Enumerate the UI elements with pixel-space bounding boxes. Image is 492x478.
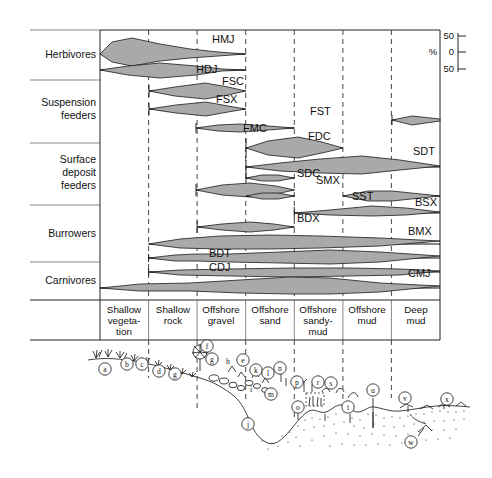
key-marker-b: b	[121, 358, 133, 370]
key-letter-m: m	[268, 390, 274, 399]
key-marker-i: i	[250, 385, 252, 394]
series-label-SST: SST	[352, 190, 374, 202]
key-letter-s: s	[330, 379, 333, 388]
habitat-6-l2: mud	[406, 315, 425, 326]
series-label-BDX: BDX	[297, 212, 320, 224]
key-letter-i: i	[250, 385, 252, 394]
key-marker-a: a	[99, 363, 111, 375]
guild-label-carnivores: Carnivores	[45, 274, 96, 286]
key-letter-g1: g	[173, 370, 177, 379]
figure-svg: Herbivores Suspension feeders Surface de…	[0, 0, 492, 478]
series-label-HDJ: HDJ	[196, 63, 217, 75]
series-label-FSX: FSX	[216, 93, 238, 105]
habitat-3-l1: Offshore	[251, 304, 289, 315]
key-marker-x: x	[441, 393, 453, 405]
series-label-BMX: BMX	[408, 225, 433, 237]
key-marker-u: u	[367, 384, 379, 396]
key-marker-j: j	[242, 418, 254, 430]
key-marker-v: v	[399, 392, 411, 404]
key-letter-d: d	[157, 367, 161, 376]
key-letter-l: l	[267, 369, 269, 378]
habitat-0-l2: vegeta-	[108, 315, 141, 326]
key-letter-b: b	[125, 360, 129, 369]
key-marker-d: d	[153, 365, 165, 377]
habitat-1-l1: Shallow	[156, 304, 191, 315]
benthic-guild-distribution-figure: Herbivores Suspension feeders Surface de…	[0, 0, 492, 478]
tube-patch-box	[306, 393, 324, 406]
series-label-BSX: BSX	[415, 196, 438, 208]
key-letter-x: x	[445, 395, 449, 404]
key-marker-t: t	[342, 401, 354, 413]
band-shape-CDJ	[149, 268, 440, 277]
key-marker-h: h	[226, 357, 230, 366]
percent-scale-key: 50 0 50 %	[429, 30, 466, 74]
burrow-tubes	[298, 412, 426, 428]
series-band-SDC	[246, 173, 294, 183]
key-letter-v: v	[403, 394, 407, 403]
guild-label-surface-l2: deposit	[62, 166, 96, 178]
key-letter-k: k	[254, 366, 258, 375]
habitat-0-l3: tion	[116, 326, 132, 337]
habitat-2-l1: Offshore	[202, 304, 240, 315]
key-letter-u: u	[371, 386, 375, 395]
series-label-FMC: FMC	[243, 122, 267, 134]
habitat-5-l2: mud	[357, 315, 376, 326]
key-marker-w: w	[405, 436, 417, 448]
habitat-1-l2: rock	[164, 315, 183, 326]
guild-label-surface-l1: Surface	[60, 153, 96, 165]
band-shape-SDT	[246, 156, 440, 174]
band-shape-FST	[392, 116, 440, 125]
series-label-FSC: FSC	[222, 75, 244, 87]
series-label-BDT: BDT	[209, 247, 231, 259]
key-marker-r: r	[312, 376, 324, 388]
key-letter-j: j	[246, 420, 249, 429]
band-shape-BDX	[197, 222, 294, 232]
habitat-headers: Shallow vegeta- tion Shallow rock Offsho…	[107, 304, 428, 337]
key-letter-g2: g	[210, 355, 214, 364]
series-band-SDT	[246, 156, 440, 174]
habitat-2-l2: gravel	[208, 315, 235, 326]
guild-label-surface-l3: feeders	[61, 179, 96, 191]
scale-label-bottom: 50	[443, 63, 454, 74]
scale-label-mid: 0	[449, 46, 454, 57]
habitat-4-l2: sandy-	[303, 315, 332, 326]
band-shape-SDC	[246, 175, 294, 181]
series-label-HMJ: HMJ	[212, 33, 235, 45]
guild-label-suspension-l2: feeders	[61, 109, 96, 121]
key-letter-h: h	[226, 357, 230, 366]
scale-label-top: 50	[443, 30, 454, 41]
key-letter-p: p	[295, 378, 299, 387]
habitat-3-l2: sand	[259, 315, 280, 326]
series-label-FST: FST	[310, 105, 331, 117]
key-letter-o: o	[296, 403, 300, 412]
key-letter-w: w	[408, 438, 414, 447]
seafloor-illustration: a b c d g f g h e k l n m i j p o r s t …	[88, 340, 470, 450]
key-marker-c: c	[136, 358, 148, 370]
series-label-SMX: SMX	[316, 174, 341, 186]
scale-unit-label: %	[429, 46, 438, 57]
key-marker-g1: g	[169, 368, 181, 380]
series-band-CMJ	[100, 277, 440, 294]
key-marker-l: l	[262, 367, 274, 379]
habitat-0-l1: Shallow	[107, 304, 142, 315]
series-band-BDT	[149, 250, 440, 264]
band-shape-CMJ	[100, 277, 440, 294]
guild-label-burrowers: Burrowers	[48, 227, 96, 239]
habitat-4-l1: Offshore	[299, 304, 337, 315]
habitat-6-l1: Deep	[404, 304, 428, 315]
series-label-FDC: FDC	[308, 130, 331, 142]
series-band-CDJ	[149, 268, 440, 277]
habitat-4-l3: mud	[308, 326, 327, 337]
key-marker-o: o	[292, 401, 304, 413]
series-band-BMX	[149, 235, 440, 249]
band-shape-BMX	[149, 235, 440, 249]
series-label-CMJ: CMJ	[408, 267, 431, 279]
guild-axis-labels: Herbivores Suspension feeders Surface de…	[41, 48, 96, 286]
sediment-stipple	[261, 410, 464, 449]
key-marker-g2: g	[206, 353, 218, 365]
key-marker-n: n	[274, 362, 286, 374]
key-marker-p: p	[291, 376, 303, 388]
series-label-SDT: SDT	[413, 145, 435, 157]
band-shape-BDT	[149, 250, 440, 264]
series-band-FST	[392, 115, 440, 125]
